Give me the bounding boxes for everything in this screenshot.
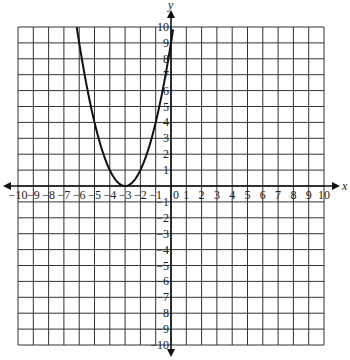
- x-tick-label: 9: [306, 188, 312, 202]
- y-tick-label: 3: [163, 131, 169, 145]
- y-tick-label: 5: [163, 100, 169, 114]
- x-tick-label: 8: [290, 188, 296, 202]
- x-tick-label: −3: [119, 188, 132, 202]
- x-tick-label: −9: [27, 188, 40, 202]
- x-tick-label: −4: [103, 188, 116, 202]
- coordinate-plane: xy−10−9−8−7−6−5−4−3−2−1012345678910−10−9…: [0, 0, 350, 360]
- x-tick-label: 5: [245, 188, 251, 202]
- x-tick-label: 6: [260, 188, 266, 202]
- x-axis-label: x: [341, 179, 348, 193]
- x-tick-label: −2: [134, 188, 147, 202]
- y-tick-label: −8: [156, 306, 169, 320]
- y-tick-label: −7: [156, 290, 169, 304]
- y-tick-label: −10: [150, 338, 169, 352]
- y-axis-label: y: [167, 0, 174, 12]
- y-tick-label: 1: [163, 163, 169, 177]
- y-tick-label: −1: [156, 195, 169, 209]
- x-tick-label: −8: [42, 188, 55, 202]
- y-tick-label: −5: [156, 259, 169, 273]
- x-tick-label: 4: [229, 188, 235, 202]
- x-axis-right-arrow-icon: [332, 182, 340, 190]
- y-tick-label: 4: [163, 115, 169, 129]
- y-tick-label: −2: [156, 211, 169, 225]
- x-tick-label: −10: [9, 188, 28, 202]
- y-tick-label: 2: [163, 147, 169, 161]
- x-tick-label: 3: [214, 188, 220, 202]
- x-tick-label: 10: [318, 188, 330, 202]
- y-tick-label: 10: [157, 20, 169, 34]
- x-tick-label: −5: [88, 188, 101, 202]
- x-tick-label: −6: [73, 188, 86, 202]
- y-tick-label: 9: [163, 36, 169, 50]
- y-tick-label: −4: [156, 243, 169, 257]
- x-tick-label: 1: [183, 188, 189, 202]
- x-tick-label: −7: [58, 188, 71, 202]
- x-tick-label: 0: [173, 188, 179, 202]
- y-tick-label: −9: [156, 322, 169, 336]
- y-tick-label: −3: [156, 227, 169, 241]
- y-tick-label: −6: [156, 274, 169, 288]
- x-tick-label: 7: [275, 188, 281, 202]
- x-tick-label: 2: [199, 188, 205, 202]
